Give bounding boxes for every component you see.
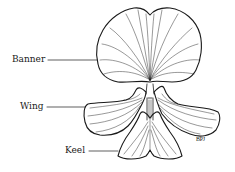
artist-signature: BPJ — [196, 136, 205, 142]
banner-petal — [97, 8, 202, 82]
label-wing: Wing — [20, 102, 44, 111]
flower-illustration — [0, 0, 235, 172]
label-keel: Keel — [65, 146, 85, 155]
banner-veins — [100, 10, 200, 80]
left-wing-petal — [84, 88, 146, 135]
flower-diagram: Banner Wing Keel BPJ — [0, 0, 235, 172]
right-wing-petal — [154, 86, 220, 136]
right-wing-veins — [158, 94, 216, 134]
label-banner: Banner — [12, 55, 45, 64]
